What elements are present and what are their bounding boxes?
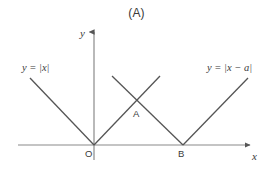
curve1-left-arm bbox=[30, 78, 94, 145]
curve-y-equals-abs-x bbox=[30, 76, 160, 145]
y-axis-label: y bbox=[79, 27, 85, 39]
curve2-right-arm bbox=[183, 78, 248, 145]
curve1-right-arm bbox=[94, 76, 160, 145]
curve-label-abs-x-minus-a: y = |x − a| bbox=[206, 62, 252, 73]
figure-container: (A) y = |x| y = |x − a| y x bbox=[0, 0, 273, 171]
curve-label-abs-x: y = |x| bbox=[21, 62, 49, 73]
curve2-left-arm bbox=[112, 76, 183, 145]
x-axis-label: x bbox=[251, 150, 257, 162]
point-label-b: B bbox=[178, 148, 184, 159]
point-label-origin: O bbox=[85, 148, 92, 159]
point-label-a: A bbox=[133, 108, 140, 119]
math-plot: y = |x| y = |x − a| y x O A B bbox=[0, 0, 273, 171]
